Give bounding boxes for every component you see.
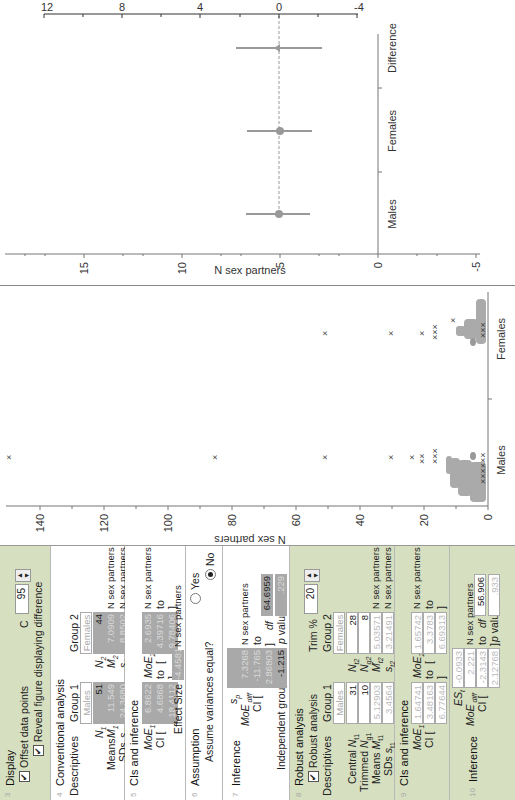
svg-text:××: ×× bbox=[417, 453, 427, 464]
moe-diff-units: N sex partners bbox=[239, 583, 250, 645]
moe2-label: MoE2 bbox=[142, 653, 156, 679]
rci2-to: to bbox=[423, 600, 435, 609]
df-label: df bbox=[263, 621, 275, 630]
group2-name[interactable]: Females bbox=[80, 612, 92, 654]
effect-size-label: Effect Size bbox=[172, 684, 184, 734]
no-label: No bbox=[204, 553, 216, 566]
dot-category-females: Females bbox=[495, 317, 507, 360]
section-number: 6 bbox=[190, 793, 199, 797]
ci1-label: CI [ bbox=[154, 732, 166, 748]
assume-variances-question: Assume variances equal? bbox=[203, 642, 215, 762]
section-number: 5 bbox=[129, 793, 138, 797]
ci-diff-label: CI [ bbox=[251, 696, 263, 712]
yes-label: Yes bbox=[189, 573, 201, 590]
reveal-difference-label: Reveal figure displaying difference bbox=[32, 582, 44, 742]
svg-text:×: × bbox=[386, 331, 396, 336]
diff-tick-12: 12 bbox=[41, 1, 53, 13]
rci1-low: 3.48163 bbox=[423, 682, 435, 724]
ci-diff-close: ] bbox=[263, 643, 275, 646]
males-mean-point bbox=[275, 210, 283, 218]
n1-value: 51 bbox=[93, 682, 105, 724]
mean2-value: 5.03571 bbox=[370, 612, 382, 654]
ci-category-difference: Difference bbox=[386, 23, 398, 73]
females-mean-point bbox=[276, 127, 284, 135]
rci2-open: [ bbox=[423, 661, 435, 664]
svg-text:×: × bbox=[320, 455, 330, 460]
group1-name[interactable]: Males bbox=[80, 682, 92, 724]
section-number: 3 bbox=[3, 793, 12, 797]
reveal-difference-checkbox[interactable]: ✔ bbox=[33, 745, 44, 756]
robust-group2-label: Group 2 bbox=[321, 614, 333, 652]
conventional-title: Conventional analysis bbox=[54, 679, 66, 786]
dot-category-males: Males bbox=[495, 445, 507, 475]
robust-section: 8 Robust analysis ✔ Robust analysis Trim… bbox=[290, 546, 395, 800]
yes-radio[interactable] bbox=[190, 593, 201, 604]
dot-tick-20: 20 bbox=[418, 514, 430, 526]
svg-text:×: × bbox=[417, 331, 427, 336]
moe1-value: 6.8622 bbox=[142, 682, 154, 724]
ci-tick-15: 15 bbox=[78, 262, 90, 274]
c-spinner[interactable]: ▲▼ bbox=[15, 569, 31, 582]
dot-tick-60: 60 bbox=[290, 514, 302, 526]
rci2-low: 3.3783 bbox=[423, 612, 435, 654]
n2-value: 44 bbox=[93, 612, 105, 654]
dot-tick-40: 40 bbox=[354, 514, 366, 526]
trim-input[interactable]: 20 bbox=[304, 584, 318, 614]
ci-tick-0: 0 bbox=[372, 262, 384, 268]
ci-plot-chart: -5 0 5 10 15 N sex partners Males Female… bbox=[0, 0, 515, 284]
diff-tick-neg4: -4 bbox=[354, 1, 364, 13]
ci-category-males: Males bbox=[386, 199, 398, 229]
cis-section: 5 CIs and inference MoE1 6.8622 CI [ 4.6… bbox=[125, 546, 186, 800]
dot-y-axis-label: N sex partners bbox=[214, 534, 286, 544]
rmoe2-units: N sex partners bbox=[411, 547, 422, 609]
svg-text:×: × bbox=[320, 331, 330, 336]
svg-text:×: × bbox=[210, 455, 220, 460]
rci2-close: ] bbox=[435, 606, 447, 609]
inference-section: 7 Inference sp MoE diff 7.3268 N sex par… bbox=[223, 546, 290, 800]
assumption-title: Assumption bbox=[189, 729, 201, 786]
diff-tick-0: 0 bbox=[276, 1, 282, 13]
dot-tick-120: 120 bbox=[98, 514, 110, 532]
robust-group2-name: Females bbox=[333, 612, 345, 654]
trim-spinner[interactable]: ▲▼ bbox=[304, 569, 320, 582]
rci-diff-to: to bbox=[476, 636, 488, 645]
robust-descriptives-label: Descriptives bbox=[321, 736, 333, 796]
rmoe2-value: 1.65742 bbox=[411, 612, 423, 654]
diff-tick-4: 4 bbox=[197, 1, 203, 13]
df-value: 64.6959 bbox=[261, 574, 273, 616]
robust-inference-section: 10 Inference ESt -0.0933 MoE diff 2.221 … bbox=[450, 546, 515, 800]
rp-value: .933 bbox=[488, 574, 500, 616]
offset-checkbox[interactable]: ✔ bbox=[19, 771, 30, 782]
difference-point bbox=[274, 44, 280, 52]
dot-tick-0: 0 bbox=[482, 514, 494, 520]
c-input[interactable]: 95 bbox=[15, 584, 29, 614]
rdf-label: df bbox=[476, 619, 488, 628]
svg-text:×××: ××× bbox=[430, 448, 440, 464]
rci-diff-label: CI [ bbox=[476, 696, 488, 712]
descriptives-label: Descriptives bbox=[68, 736, 80, 796]
ci-plot-svg: -5 0 5 10 15 N sex partners Males Female… bbox=[0, 0, 515, 284]
group1-label: Group 1 bbox=[68, 684, 80, 722]
conventional-section: 4 Conventional analysis Descriptives Gro… bbox=[51, 546, 125, 800]
rci1-close: ] bbox=[435, 676, 447, 679]
males-mean-marker bbox=[470, 452, 476, 460]
rci1-label: CI [ bbox=[423, 732, 435, 748]
rci-diff-close: ] bbox=[488, 643, 500, 646]
svg-text:×: × bbox=[4, 455, 14, 460]
ci-diff-low: -11.765 bbox=[251, 648, 263, 688]
assumption-section: 6 Assumption Assume variances equal? Yes… bbox=[186, 546, 223, 800]
svg-text:×××: ××× bbox=[430, 324, 440, 340]
t-value: -1.215 bbox=[275, 648, 287, 688]
ci-tick-neg5: -5 bbox=[470, 262, 482, 272]
offset-label: Offset data points bbox=[18, 686, 30, 768]
robust-title: Robust analysis bbox=[293, 708, 305, 786]
display-section: 3 Display ✔ Offset data points ✔ Reveal … bbox=[0, 546, 51, 800]
inference-title: Inference bbox=[230, 740, 242, 786]
robust-checkbox[interactable]: ✔ bbox=[308, 771, 319, 782]
m2-value: 7.0909 bbox=[105, 612, 117, 654]
rci-diff-low: -2.3143 bbox=[476, 648, 488, 688]
no-radio[interactable] bbox=[205, 569, 216, 580]
ci2-to: to bbox=[154, 600, 166, 609]
ci1-low: 4.6868 bbox=[154, 682, 166, 724]
effect-size-units: N sex partners bbox=[172, 585, 183, 647]
